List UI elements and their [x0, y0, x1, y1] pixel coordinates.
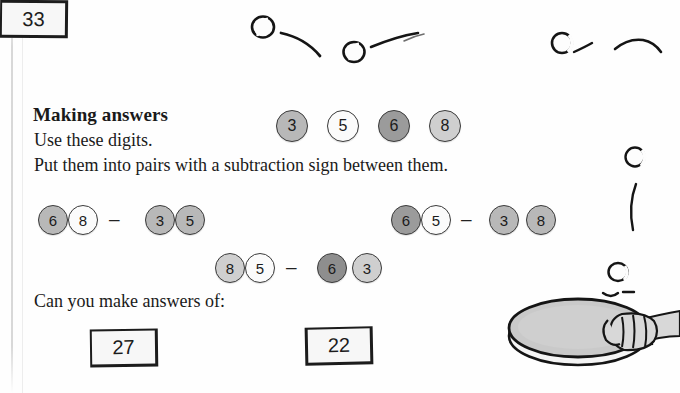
digit-token[interactable]: 8: [68, 205, 98, 235]
paddle-face-highlight-icon: [518, 305, 638, 349]
ball-motion-trail-icon: [631, 184, 636, 230]
finger-icon: [644, 316, 646, 347]
ball-motion-trail-icon: [615, 40, 661, 52]
page-gutter-line: [11, 0, 13, 393]
instruction-line-2: Put them into pairs with a subtraction s…: [34, 155, 448, 176]
page-gutter-shadow: [22, 0, 23, 393]
minus-sign: –: [286, 256, 297, 278]
forearm-icon: [634, 311, 680, 344]
ball-motion-trail-icon: [574, 43, 592, 52]
digit-token[interactable]: 6: [378, 110, 410, 142]
digit-token[interactable]: 6: [38, 205, 68, 235]
ball-motion-trail-icon: [281, 33, 320, 56]
page-title: Making answers: [33, 104, 168, 126]
minus-sign: –: [109, 208, 120, 230]
ball-motion-trail-icon: [404, 34, 424, 41]
hand-icon: [610, 313, 657, 350]
digit-token[interactable]: 5: [421, 205, 451, 235]
ping-pong-ball-icon: [552, 33, 572, 53]
digit-token[interactable]: 3: [352, 253, 382, 283]
worksheet-page: Making answers Use these digits. Put the…: [0, 0, 680, 393]
answer-box[interactable]: 22: [305, 326, 374, 365]
ping-pong-ball-icon: [252, 17, 274, 38]
digit-token[interactable]: 5: [175, 205, 205, 235]
ping-pong-ball-icon: [344, 42, 365, 62]
digit-token[interactable]: 3: [276, 110, 308, 142]
paddle-edge-icon: [509, 307, 647, 365]
instruction-line-1: Use these digits.: [34, 130, 153, 151]
question-line: Can you make answers of:: [34, 291, 225, 312]
ping-pong-ball-icon: [609, 263, 628, 281]
finger-icon: [622, 317, 624, 347]
digit-token[interactable]: 3: [489, 205, 519, 235]
paddle-handle-icon: [586, 323, 652, 350]
digit-token[interactable]: 8: [429, 110, 461, 142]
digit-token[interactable]: 8: [526, 205, 556, 235]
digit-token[interactable]: 8: [215, 253, 245, 283]
digit-token[interactable]: 5: [327, 110, 359, 142]
digit-token[interactable]: 6: [317, 253, 347, 283]
answer-box[interactable]: 33: [0, 0, 68, 38]
ping-pong-ball-icon: [626, 148, 645, 167]
thumb-icon: [603, 320, 620, 345]
digit-token[interactable]: 5: [245, 253, 275, 283]
digit-token[interactable]: 6: [391, 205, 421, 235]
finger-icon: [633, 315, 635, 348]
minus-sign: –: [461, 208, 472, 230]
digit-token[interactable]: 3: [145, 205, 175, 235]
answer-box[interactable]: 27: [90, 329, 159, 368]
ball-motion-trail-icon: [371, 33, 418, 47]
table-tennis-paddle-icon: [509, 299, 647, 357]
ball-motion-trail-icon: [603, 293, 618, 296]
